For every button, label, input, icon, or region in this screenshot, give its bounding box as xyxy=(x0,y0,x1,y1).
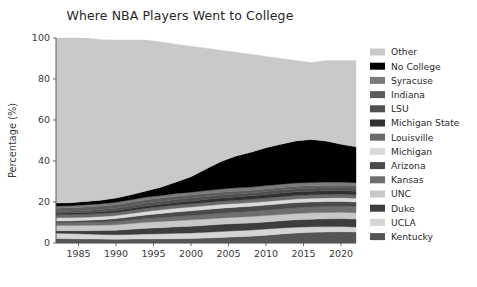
legend-label-michigan-state: Michigan State xyxy=(391,117,460,128)
legend-label-michigan: Michigan xyxy=(391,146,432,157)
legend-swatch-other xyxy=(370,49,385,56)
x-tick-label: 1995 xyxy=(141,248,165,259)
legend-label-ucla: UCLA xyxy=(391,217,416,228)
legend-label-duke: Duke xyxy=(391,203,415,214)
legend-swatch-ucla xyxy=(370,219,385,226)
stacked-area-chart: 0204060801001985199019952000200520102015… xyxy=(0,0,477,287)
y-axis-title: Percentage (%) xyxy=(7,103,18,178)
y-tick-label: 40 xyxy=(38,155,50,166)
legend-swatch-michigan-state xyxy=(370,120,385,127)
legend-swatch-duke xyxy=(370,205,385,212)
y-tick-label: 100 xyxy=(32,32,50,43)
legend-swatch-indiana xyxy=(370,91,385,98)
legend-label-arizona: Arizona xyxy=(391,160,426,171)
y-tick-label: 20 xyxy=(38,196,50,207)
x-tick-label: 2010 xyxy=(254,248,278,259)
chart-figure: Where NBA Players Went to College 020406… xyxy=(0,0,477,287)
legend-swatch-kentucky xyxy=(370,233,385,240)
y-tick-label: 60 xyxy=(38,114,50,125)
legend-label-no-college: No College xyxy=(391,61,441,72)
legend-label-louisville: Louisville xyxy=(391,132,434,143)
x-tick-label: 2015 xyxy=(291,248,315,259)
legend-swatch-syracuse xyxy=(370,77,385,84)
legend-label-kentucky: Kentucky xyxy=(391,231,434,242)
legend-swatch-arizona xyxy=(370,162,385,169)
legend-label-kansas: Kansas xyxy=(391,174,424,185)
legend-swatch-kansas xyxy=(370,176,385,183)
x-tick-label: 1985 xyxy=(66,248,90,259)
legend-label-unc: UNC xyxy=(391,188,411,199)
x-tick-label: 1990 xyxy=(104,248,128,259)
legend-label-lsu: LSU xyxy=(391,103,409,114)
legend-swatch-michigan xyxy=(370,148,385,155)
x-tick-label: 2000 xyxy=(179,248,203,259)
legend-swatch-no-college xyxy=(370,63,385,70)
plot-area xyxy=(56,38,356,243)
y-tick-label: 80 xyxy=(38,73,50,84)
legend-label-other: Other xyxy=(391,46,417,57)
legend-label-indiana: Indiana xyxy=(391,89,425,100)
legend-swatch-lsu xyxy=(370,105,385,112)
x-tick-label: 2020 xyxy=(329,248,353,259)
legend-swatch-louisville xyxy=(370,134,385,141)
chart-legend: OtherNo CollegeSyracuseIndianaLSUMichiga… xyxy=(370,46,460,242)
legend-label-syracuse: Syracuse xyxy=(391,75,433,86)
y-tick-label: 0 xyxy=(44,237,50,248)
x-tick-label: 2005 xyxy=(216,248,240,259)
legend-swatch-unc xyxy=(370,191,385,198)
